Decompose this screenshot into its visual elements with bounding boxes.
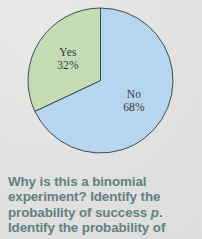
pie-label-no-percent: 68%: [112, 101, 156, 114]
caption-line-3-text: probability of success: [8, 205, 151, 220]
caption-line-4: Identify the probability of: [8, 220, 198, 235]
pie-label-no: No 68%: [112, 88, 156, 113]
caption-line-2: experiment? Identify the: [8, 189, 198, 204]
pie-chart-graphic: [0, 0, 202, 163]
caption-text: Why is this a binomial experiment? Ident…: [8, 174, 198, 236]
caption-symbol-p: p: [151, 205, 159, 220]
figure-page: Yes 32% No 68% Why is this a binomial ex…: [0, 0, 202, 239]
pie-label-no-name: No: [127, 88, 141, 100]
caption-line-3-tail: .: [159, 205, 163, 220]
pie-label-yes: Yes 32%: [44, 46, 92, 71]
caption-line-1: Why is this a binomial: [8, 174, 198, 189]
pie-chart: Yes 32% No 68%: [0, 0, 202, 163]
caption-line-3: probability of success p.: [8, 205, 198, 220]
pie-label-yes-percent: 32%: [44, 59, 92, 72]
pie-label-yes-name: Yes: [59, 46, 76, 58]
